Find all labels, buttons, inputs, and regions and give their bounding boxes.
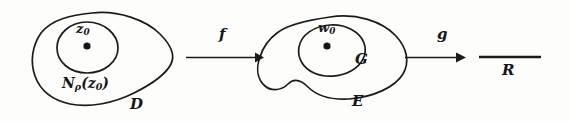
label-map-f: f [219, 27, 225, 42]
label-real-line-r: R [502, 63, 514, 78]
label-map-g: g [437, 27, 448, 42]
point-z0-dot [83, 42, 90, 49]
label-region-g: G [355, 52, 368, 67]
math-mapping-diagram: z0 Nρ(z0) D f w0 G E g R [0, 0, 570, 121]
label-neighborhood: Nρ(z0) [62, 76, 109, 92]
point-w0-dot [323, 42, 330, 49]
diagram-canvas [0, 0, 570, 121]
label-z0: z0 [76, 22, 90, 37]
arrow-g-head [456, 53, 466, 63]
label-region-e: E [352, 94, 363, 109]
label-domain-d: D [130, 97, 143, 112]
label-w0: w0 [318, 21, 335, 36]
